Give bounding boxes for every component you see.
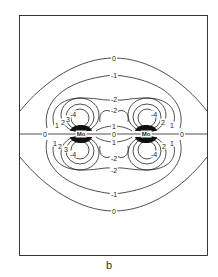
figure-caption: b	[0, 259, 218, 271]
axis-label-center: 0	[111, 131, 117, 138]
atom-label-mo-left: Mo	[76, 131, 87, 138]
contour-label: 3	[63, 146, 69, 153]
contour-label: -4	[150, 111, 158, 118]
contour-label: -2	[110, 96, 118, 103]
contour-label: 2	[160, 119, 166, 126]
contour-label: 1	[111, 123, 117, 130]
contour-label: -2	[110, 155, 118, 162]
contour-label: 3	[65, 116, 71, 123]
atom-label-mo-right: Mo	[141, 131, 152, 138]
contour-label: 0	[111, 208, 117, 215]
contour-label: -1	[110, 72, 118, 79]
contour-0-top	[20, 58, 207, 111]
contour-label: 1	[111, 139, 117, 146]
contour-0-bottom	[20, 157, 207, 211]
contour-label: -2	[110, 107, 118, 114]
contour-label: 1	[169, 140, 175, 147]
contour-label: -4	[150, 151, 158, 158]
contour-label: -1	[110, 191, 118, 198]
contour-diagram	[0, 0, 218, 277]
contour-label: -4	[69, 151, 77, 158]
axis-label-left: 0	[42, 131, 48, 138]
contour-label: 2	[161, 143, 167, 150]
contour-label: -2	[110, 167, 118, 174]
axis-label-right: 0	[179, 131, 185, 138]
contour-label: 1	[169, 122, 175, 129]
contour-label: 0	[111, 55, 117, 62]
